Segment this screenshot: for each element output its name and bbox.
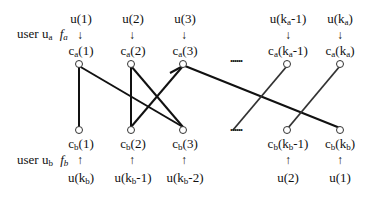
node-cbkb <box>337 127 344 134</box>
top-input-ka: u(ka) <box>327 12 353 27</box>
top-ellipsis: ...... <box>230 52 242 64</box>
arrow-down-icon: ↓ <box>181 29 187 41</box>
bottom-node-label-2: cb(2) <box>120 137 145 152</box>
bottom-node-label-1: cb(1) <box>68 137 93 152</box>
bottom-input-kb-1: u(kb-1) <box>114 171 151 186</box>
node-caka1 <box>284 61 291 68</box>
node-cb2 <box>128 127 135 134</box>
top-node-label-1: ca(1) <box>69 44 94 59</box>
function-fa-label: fa <box>60 26 68 41</box>
function-fb-label: fb <box>60 152 68 167</box>
arrow-up-icon: ↑ <box>181 154 187 166</box>
node-ca1 <box>76 61 83 68</box>
top-node-label-ka: ca(ka) <box>326 44 355 59</box>
bottom-input-kb: u(kb) <box>68 171 94 186</box>
node-caka <box>337 61 344 68</box>
node-ca3 <box>180 61 187 68</box>
node-cb1 <box>76 127 83 134</box>
top-input-3: u(3) <box>174 12 196 25</box>
arrow-down-icon: ↓ <box>337 29 343 41</box>
bottom-node-label-kb-1: cb(kb-1) <box>268 137 309 152</box>
edge-ca3-cbkb <box>185 66 340 128</box>
top-input-2: u(2) <box>122 12 144 25</box>
edge-caka-cbkb1 <box>288 66 340 128</box>
bottom-node-label-3: cb(3) <box>172 137 197 152</box>
top-node-label-2: ca(2) <box>121 44 146 59</box>
top-input-ka-1: u(ka-1) <box>270 12 307 27</box>
bottom-input-kb-2: u(kb-2) <box>166 171 203 186</box>
node-ca2 <box>128 61 135 68</box>
arrow-down-icon: ↓ <box>129 29 135 41</box>
bottom-ellipsis: ...... <box>230 121 242 133</box>
node-cbkb1 <box>284 127 291 134</box>
arrow-up-icon: ↑ <box>337 154 343 166</box>
bottom-input-1: u(1) <box>329 171 351 184</box>
arrow-down-icon: ↓ <box>77 29 83 41</box>
top-node-label-ka-1: ca(ka-1) <box>268 44 308 59</box>
user-b-label: user ub fb <box>17 153 68 168</box>
arrow-down-icon: ↓ <box>285 29 291 41</box>
arrow-up-icon: ↑ <box>77 154 83 166</box>
top-node-label-3: ca(3) <box>173 44 198 59</box>
arrow-up-icon: ↑ <box>129 154 135 166</box>
bottom-node-label-kb: cb(kb) <box>325 137 355 152</box>
node-cb3 <box>180 127 187 134</box>
bottom-input-2: u(2) <box>277 171 299 184</box>
arrow-up-icon: ↑ <box>285 154 291 166</box>
user-a-label: user ua fa <box>17 27 68 42</box>
top-input-1: u(1) <box>70 12 92 25</box>
